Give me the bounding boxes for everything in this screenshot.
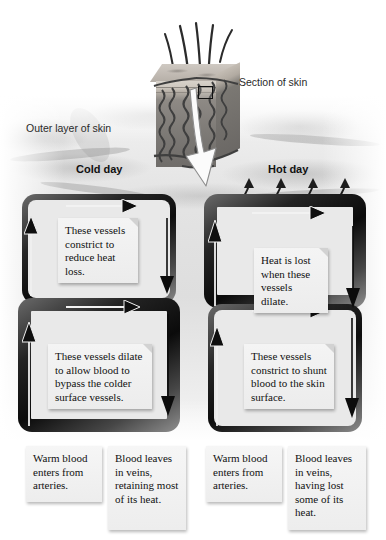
caption-hot-artery: Warm blood enters from arteries. <box>206 446 282 502</box>
flow-arrow-right-down <box>160 218 174 296</box>
note-cold-surface-vessel: These vessels constrict to reduce heat l… <box>58 218 138 283</box>
caption-cold-vein: Blood leaves in veins, retaining most of… <box>108 446 186 530</box>
note-corner-fold <box>129 218 138 227</box>
note-corner-fold <box>319 248 328 257</box>
flow-arrow-right-down <box>346 226 360 310</box>
note-hot-deep-vessel: These vessels constrict to shunt blood t… <box>244 344 334 409</box>
flow-arrow-left-up-deep <box>210 322 224 426</box>
flow-arrow-left-up-surface <box>24 212 38 296</box>
flow-arrow-middle-right <box>66 300 142 314</box>
note-text: Heat is lost when these vessels dilate. <box>261 254 311 307</box>
note-corner-fold <box>325 344 334 353</box>
note-text: These vessels constrict to shunt blood t… <box>251 350 327 403</box>
caption-hot-vein: Blood leaves in veins, having lost some … <box>288 446 366 530</box>
flow-arrow-right-down-deep <box>161 314 175 420</box>
caption-cold-artery: Warm blood enters from arteries. <box>26 446 102 502</box>
note-corner-fold <box>143 344 152 353</box>
note-text: These vessels dilate to allow blood to b… <box>55 350 142 403</box>
note-hot-surface-vessel: Heat is lost when these vessels dilate. <box>254 248 328 313</box>
heading-hot-day: Hot day <box>268 163 308 175</box>
heading-cold-day: Cold day <box>76 163 122 175</box>
flow-arrow-left-up-surface <box>208 216 222 306</box>
flow-arrow-right-down-deep <box>345 318 359 422</box>
flow-arrow-top-right <box>66 199 140 213</box>
label-section-of-skin: Section of skin <box>239 76 307 88</box>
flow-arrow-left-up-deep <box>22 318 36 426</box>
note-text: These vessels constrict to reduce heat l… <box>65 224 125 277</box>
callout-arrow-icon <box>176 86 240 190</box>
label-outer-layer-of-skin: Outer layer of skin <box>26 122 111 134</box>
figure-canvas: Section of skin Outer layer of skin Cold… <box>0 0 386 540</box>
note-cold-deep-vessel: These vessels dilate to allow blood to b… <box>48 344 152 409</box>
flow-arrow-top-right <box>252 206 328 220</box>
